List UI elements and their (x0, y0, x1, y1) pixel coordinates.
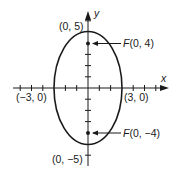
arrow-left-icon (92, 41, 98, 46)
vertex-bottom-label: (0, −5) (52, 153, 83, 165)
vertex-right-label: (3, 0) (124, 91, 149, 103)
y-axis-arrow-icon (85, 11, 91, 20)
diagram-canvas: y x (0, 5) (0, −5) (−3, 0) (3, 0) F(0, 4… (0, 0, 177, 175)
x-axis-label: x (160, 72, 167, 84)
focus-lower-label: F(0, −4) (123, 127, 160, 139)
vertex-top-label: (0, 5) (59, 20, 84, 32)
focus-lower-point (86, 131, 90, 135)
x-axis-arrow-icon (160, 85, 169, 91)
focus-upper-label: F(0, 4) (123, 37, 154, 49)
arrow-left-icon (92, 131, 98, 136)
vertex-left-label: (−3, 0) (16, 91, 47, 103)
y-axis-label: y (93, 7, 100, 19)
focus-upper-leader (92, 41, 121, 46)
focus-upper-point (86, 42, 90, 46)
ellipse-diagram: y x (0, 5) (0, −5) (−3, 0) (3, 0) F(0, 4… (0, 0, 177, 175)
